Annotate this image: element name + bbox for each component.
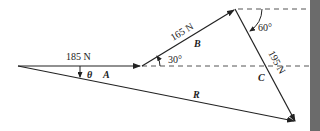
diagram-canvas: 185 N θ A 165 N B 30° 60° 195 N C R bbox=[0, 0, 320, 131]
label-c-magnitude: 195 N bbox=[266, 49, 288, 76]
label-theta: θ bbox=[87, 69, 93, 80]
vector-r bbox=[18, 66, 294, 121]
label-b-magnitude: 165 N bbox=[168, 21, 195, 43]
label-a: A bbox=[102, 69, 110, 80]
angle-arc-30 bbox=[157, 56, 160, 66]
vector-b bbox=[142, 10, 234, 66]
label-c: C bbox=[258, 72, 265, 83]
label-a-magnitude: 185 N bbox=[66, 51, 91, 62]
vector-diagram: 185 N θ A 165 N B 30° 60° 195 N C R bbox=[0, 0, 320, 131]
label-60-degree: 60° bbox=[258, 22, 272, 33]
label-b: B bbox=[193, 38, 201, 49]
side-gray-bar bbox=[310, 0, 320, 131]
label-r: R bbox=[192, 89, 200, 100]
label-30-degree: 30° bbox=[168, 54, 182, 65]
